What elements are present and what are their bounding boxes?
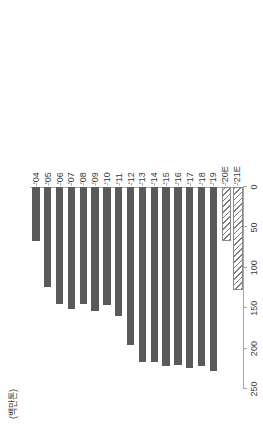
category-label: '05 (43, 172, 53, 184)
value-axis-tick-label: 0 (249, 184, 259, 189)
plot-area (30, 187, 243, 389)
bar-row (56, 187, 63, 389)
bar-row (115, 187, 122, 389)
bar-row (68, 187, 75, 389)
bar-actual[interactable] (127, 187, 134, 345)
rotated-chart-wrapper: (백만톤) 050100150200250 '04'05'06'07'08'09… (0, 0, 263, 425)
value-axis-tick-label: 250 (249, 381, 259, 396)
bar-actual[interactable] (210, 187, 217, 371)
value-axis-tick (243, 348, 247, 349)
category-label: '16 (173, 172, 183, 184)
bar-row (151, 187, 158, 389)
value-axis-tick-label: 100 (249, 260, 259, 275)
bar-actual[interactable] (174, 187, 181, 365)
bar-chart-figure: (백만톤) 050100150200250 '04'05'06'07'08'09… (0, 0, 263, 425)
category-label: '07 (66, 172, 76, 184)
value-axis-tick (243, 388, 247, 389)
category-label: '15 (161, 172, 171, 184)
bar-row (91, 187, 98, 389)
bar-actual[interactable] (151, 187, 158, 362)
category-label: '19 (208, 172, 218, 184)
bar-actual[interactable] (32, 187, 39, 241)
bar-row (210, 187, 217, 389)
category-label: '10 (102, 172, 112, 184)
bar-actual[interactable] (68, 187, 75, 309)
axis-unit-label: (백만톤) (6, 389, 19, 419)
value-axis-tick (243, 226, 247, 227)
category-label: '18 (197, 172, 207, 184)
bar-row (127, 187, 134, 389)
bar-actual[interactable] (80, 187, 87, 304)
bar-row (186, 187, 193, 389)
bar-actual[interactable] (44, 187, 51, 287)
value-axis-tick-label: 200 (249, 341, 259, 356)
value-axis-tick (243, 186, 247, 187)
bar-estimate[interactable] (233, 187, 242, 290)
bar-row (198, 187, 205, 389)
bar-row (139, 187, 146, 389)
value-axis-tick-label: 50 (249, 222, 259, 232)
category-label: '21E (232, 166, 242, 184)
value-axis-tick-label: 150 (249, 301, 259, 316)
value-axis-tick (243, 307, 247, 308)
bar-actual[interactable] (186, 187, 193, 368)
category-label: '11 (114, 173, 124, 184)
bar-actual[interactable] (139, 187, 146, 362)
bar-actual[interactable] (56, 187, 63, 304)
bar-row (222, 187, 229, 389)
bar-estimate[interactable] (222, 187, 231, 241)
category-label: '12 (126, 172, 136, 184)
bar-actual[interactable] (115, 187, 122, 316)
bar-actual[interactable] (162, 187, 169, 366)
bar-row (103, 187, 110, 389)
bar-actual[interactable] (103, 187, 110, 305)
category-label: '13 (137, 172, 147, 184)
value-axis-tick (243, 267, 247, 268)
category-label: '06 (55, 172, 65, 184)
category-label: '20E (220, 166, 230, 184)
category-label: '04 (31, 172, 41, 184)
bar-row (174, 187, 181, 389)
bar-row (162, 187, 169, 389)
bar-row (233, 187, 240, 389)
bar-actual[interactable] (198, 187, 205, 366)
bar-row (32, 187, 39, 389)
bar-actual[interactable] (91, 187, 98, 311)
value-axis-rail (243, 186, 244, 389)
category-label: '14 (149, 172, 159, 184)
bar-row (44, 187, 51, 389)
category-label: '17 (185, 172, 195, 184)
bar-row (80, 187, 87, 389)
category-label: '08 (78, 172, 88, 184)
category-label: '09 (90, 172, 100, 184)
